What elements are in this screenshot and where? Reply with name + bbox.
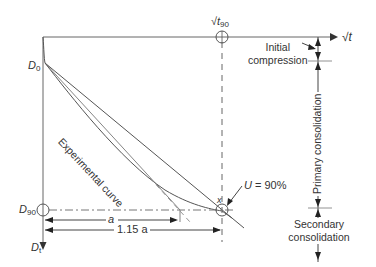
u90-label: U = 90%: [244, 180, 287, 191]
experimental-curve: [43, 37, 232, 218]
t90-label: √t90: [211, 16, 229, 29]
x-axis-label: √t: [342, 31, 352, 43]
x-axis: [43, 33, 338, 41]
a115-label: 1.15 a: [117, 224, 148, 235]
initial-compression-label: Initial compression: [248, 41, 308, 67]
dt-label: Dt: [31, 242, 41, 255]
d90-label: D90: [19, 204, 36, 217]
a-label: a: [108, 214, 114, 225]
d0-label: D0: [28, 60, 40, 73]
primary-consolidation-label: Primary consolidation: [312, 92, 323, 196]
x-marker-label: x: [217, 196, 222, 205]
secondary-consolidation-label: Secondary consolidation: [288, 218, 350, 244]
y-axis: [40, 37, 47, 250]
